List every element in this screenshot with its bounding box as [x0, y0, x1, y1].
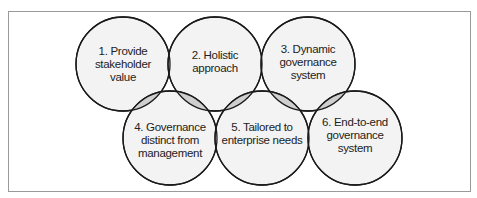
- circle-4-label: 4. Governance distinct from management: [125, 121, 215, 160]
- circle-6-label: 6. End-to-end governance system: [310, 116, 400, 155]
- circle-3-line-1: 3. Dynamic: [263, 43, 353, 56]
- principles-venn-diagram: [0, 0, 477, 198]
- circle-3-line-3: system: [263, 69, 353, 82]
- circle-4-line-1: 4. Governance: [125, 121, 215, 134]
- circle-5-line-2: enterprise needs: [217, 134, 307, 147]
- circle-4-line-3: management: [125, 147, 215, 160]
- circle-5-line-1: 5. Tailored to: [217, 121, 307, 134]
- circle-3-label: 3. Dynamic governance system: [263, 43, 353, 82]
- circle-6-line-2: governance: [310, 129, 400, 142]
- circle-5-label: 5. Tailored to enterprise needs: [217, 121, 307, 147]
- circle-2-line-2: approach: [170, 62, 260, 75]
- circle-1-line-2: stakeholder: [78, 58, 168, 71]
- circle-2-line-1: 2. Holistic: [170, 49, 260, 62]
- circle-2-label: 2. Holistic approach: [170, 49, 260, 75]
- circle-1-line-1: 1. Provide: [78, 45, 168, 58]
- circle-1-label: 1. Provide stakeholder value: [78, 45, 168, 84]
- circle-3-line-2: governance: [263, 56, 353, 69]
- circle-6-line-3: system: [310, 142, 400, 155]
- circle-1-line-3: value: [78, 71, 168, 84]
- circle-6-line-1: 6. End-to-end: [310, 116, 400, 129]
- circle-4-line-2: distinct from: [125, 134, 215, 147]
